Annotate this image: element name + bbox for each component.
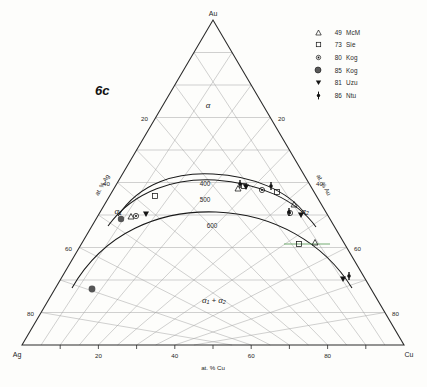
legend-number: 73 (326, 41, 346, 48)
legend-number: 81 (326, 79, 346, 86)
legend-label: Uzu (346, 79, 358, 86)
data-marker-circle-filled (118, 216, 124, 222)
right-tick-80: 80 (392, 310, 399, 317)
bottom-tick-20: 20 (95, 352, 102, 359)
bottom-tick-40: 40 (171, 352, 178, 359)
isotherm-label-400: 400 (200, 180, 211, 187)
legend-number: 80 (326, 54, 346, 61)
isotherm-label-600: 600 (207, 222, 218, 229)
phase-label-two-phase: α₁ + α₂ (202, 296, 226, 305)
apex-label-ag: Ag (13, 351, 22, 359)
axis-label-bottom: at. % Cu (201, 364, 225, 371)
legend-label: McM (346, 29, 360, 36)
triangle-down-filled-icon (310, 79, 326, 86)
data-marker-triangle-down (243, 185, 249, 191)
figure-label: 6c (95, 83, 110, 98)
data-marker-bar-dot (347, 272, 351, 280)
legend: 49 McM 73 Sie 80 Kog 85 Kog (310, 26, 420, 102)
legend-label: Kog (346, 54, 358, 61)
legend-number: 49 (326, 29, 346, 36)
right-tick-20: 20 (278, 115, 285, 122)
right-tick-60: 60 (354, 245, 361, 252)
phase-boundary-curves (72, 174, 352, 288)
legend-row: 81 Uzu (310, 76, 420, 89)
square-open-icon (310, 41, 326, 48)
isotherm-label-500: 500 (200, 196, 211, 203)
circle-dot-icon (310, 54, 326, 61)
left-tick-20: 20 (141, 115, 148, 122)
data-marker-square (153, 194, 158, 199)
left-tick-60: 60 (65, 245, 72, 252)
legend-row: 85 Kog (310, 64, 420, 77)
legend-row: 86 Ntu (310, 89, 420, 102)
data-marker-dot (135, 215, 137, 217)
data-marker-dot (261, 189, 263, 191)
data-marker-triangle-down (340, 277, 346, 283)
data-marker-triangle-down (143, 212, 149, 218)
legend-row: 80 Kog (310, 51, 420, 64)
legend-row: 49 McM (310, 26, 420, 39)
figure-root: Au Ag Cu 20 40 60 80 at. % Cu 80 60 40 2… (0, 0, 427, 387)
left-tick-80: 80 (27, 310, 34, 317)
apex-label-cu: Cu (405, 351, 414, 358)
data-points-filled (89, 180, 351, 292)
vertical-bar-dot-icon (310, 91, 326, 100)
bottom-tick-80: 80 (324, 352, 331, 359)
tick-marks (60, 345, 366, 349)
legend-label: Sie (346, 41, 356, 48)
apex-label-au: Au (209, 10, 218, 17)
legend-label: Kog (346, 67, 358, 74)
data-marker-circle-filled (89, 286, 96, 293)
data-marker-bar-dot (269, 182, 273, 190)
bottom-tick-60: 60 (248, 352, 255, 359)
circle-filled-icon (310, 66, 326, 74)
phase-label-alpha1: α₁ (114, 207, 122, 216)
legend-label: Ntu (346, 92, 356, 99)
legend-row: 73 Sie (310, 39, 420, 52)
legend-number: 85 (326, 67, 346, 74)
triangle-up-open-icon (310, 29, 326, 36)
legend-number: 86 (326, 92, 346, 99)
phase-label-alpha: α (206, 101, 211, 110)
